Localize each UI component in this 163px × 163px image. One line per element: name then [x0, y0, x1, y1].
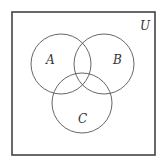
- set-b-label: B: [112, 53, 122, 67]
- set-c-label: C: [78, 112, 87, 126]
- venn-diagram: U A B C: [0, 0, 163, 163]
- set-a-label: A: [45, 53, 55, 67]
- set-b-circle: [74, 34, 134, 94]
- universe-label: U: [140, 19, 151, 33]
